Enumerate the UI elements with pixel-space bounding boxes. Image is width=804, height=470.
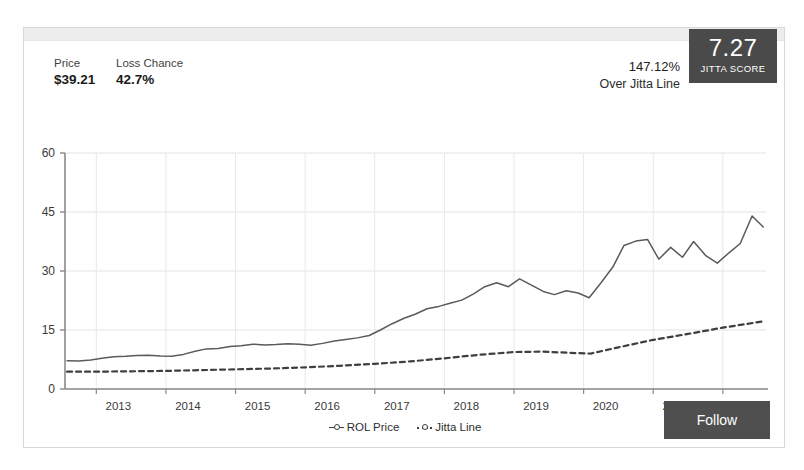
- chart-y-axis: 015304560: [42, 146, 65, 396]
- jitta-score-caption: JITTA SCORE: [689, 63, 777, 75]
- legend-item-1[interactable]: ROL Price: [329, 420, 400, 433]
- x-axis-tick-label: 2018: [454, 400, 480, 412]
- y-axis-tick-label: 60: [42, 146, 56, 160]
- price-chart-svg: 015304560 201320142015201620172018201920…: [24, 88, 786, 428]
- stat-loss-chance-value: 42.7%: [116, 71, 236, 89]
- stat-loss-chance-label: Loss Chance: [116, 56, 236, 71]
- chart-x-axis: 2013201420152016201720182019202020212022: [65, 389, 768, 412]
- x-axis-tick-label: 2015: [245, 400, 271, 412]
- stock-summary-card: Price $39.21 Loss Chance 42.7% 147.12% O…: [23, 27, 785, 448]
- y-axis-tick-label: 0: [48, 382, 55, 396]
- stat-price: Price $39.21: [54, 56, 116, 89]
- x-axis-tick-label: 2017: [384, 400, 410, 412]
- jitta-score-value: 7.27: [689, 29, 777, 63]
- over-jitta-percent: 147.12%: [599, 58, 680, 76]
- x-axis-tick-label: 2020: [593, 400, 619, 412]
- stat-price-value: $39.21: [54, 71, 116, 89]
- y-axis-tick-label: 45: [42, 205, 56, 219]
- stat-loss-chance: Loss Chance 42.7%: [116, 56, 236, 89]
- legend-label: ROL Price: [347, 421, 400, 433]
- legend-marker-icon: [329, 423, 344, 432]
- jitta-score-badge: 7.27 JITTA SCORE: [689, 29, 777, 83]
- x-axis-tick-label: 2016: [314, 400, 340, 412]
- x-axis-tick-label: 2014: [175, 400, 201, 412]
- follow-button[interactable]: Follow: [664, 401, 770, 439]
- stats-row: Price $39.21 Loss Chance 42.7%: [54, 56, 236, 89]
- y-axis-tick-label: 30: [42, 264, 56, 278]
- x-axis-tick-label: 2019: [523, 400, 549, 412]
- legend-marker-icon: [417, 423, 432, 432]
- series-line-2: [67, 321, 763, 371]
- x-axis-tick-label: 2013: [106, 400, 132, 412]
- card-top-strip: [24, 28, 784, 41]
- chart-gridlines: [65, 153, 766, 389]
- chart-series-group: [67, 216, 763, 372]
- y-axis-tick-label: 15: [42, 323, 56, 337]
- price-chart: 015304560 201320142015201620172018201920…: [24, 88, 786, 428]
- stat-price-label: Price: [54, 56, 116, 71]
- legend-item-2[interactable]: Jitta Line: [417, 420, 481, 433]
- screenshot-root: Price $39.21 Loss Chance 42.7% 147.12% O…: [0, 0, 804, 470]
- legend-label: Jitta Line: [435, 421, 481, 433]
